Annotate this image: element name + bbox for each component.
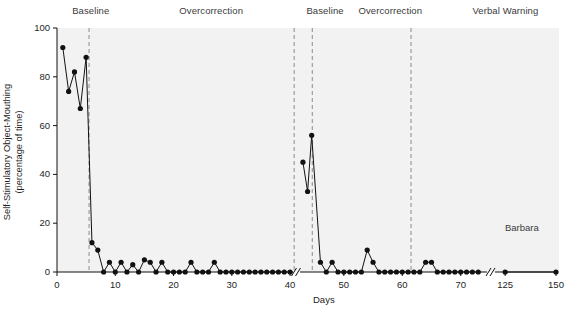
data-point [95, 247, 100, 252]
chart-figure: Self-Stimulatory Object-Mouthing (percen… [0, 0, 566, 312]
data-point [142, 257, 147, 262]
data-point [382, 269, 387, 274]
data-point [347, 269, 352, 274]
data-point [218, 269, 223, 274]
data-point [411, 269, 416, 274]
data-point [318, 260, 323, 265]
data-point [159, 260, 164, 265]
x-axis-title: Days [313, 294, 335, 305]
data-point [330, 260, 335, 265]
data-point [188, 260, 193, 265]
data-point [118, 260, 123, 265]
data-point [270, 269, 275, 274]
data-point [206, 269, 211, 274]
data-point [223, 269, 228, 274]
data-point [235, 269, 240, 274]
data-point [130, 262, 135, 267]
data-point [282, 269, 287, 274]
data-point [200, 269, 205, 274]
data-point [341, 269, 346, 274]
data-point [406, 269, 411, 274]
data-point [165, 269, 170, 274]
data-point [365, 247, 370, 252]
data-point [553, 269, 558, 274]
data-point [78, 106, 83, 111]
data-point [153, 269, 158, 274]
data-point [183, 269, 188, 274]
data-point [89, 240, 94, 245]
data-point [452, 269, 457, 274]
data-point [148, 260, 153, 265]
data-point [324, 269, 329, 274]
data-point [276, 269, 281, 274]
data-point [60, 45, 65, 50]
data-point [470, 269, 475, 274]
data-point [370, 260, 375, 265]
subject-label: Barbara [505, 222, 539, 233]
data-point [241, 269, 246, 274]
data-point [229, 269, 234, 274]
data-point [476, 269, 481, 274]
data-point [503, 269, 508, 274]
data-point [417, 269, 422, 274]
data-point [258, 269, 263, 274]
data-point [247, 269, 252, 274]
data-point [359, 269, 364, 274]
data-point [84, 55, 89, 60]
data-point [441, 269, 446, 274]
data-point [136, 269, 141, 274]
plot-background [57, 28, 559, 272]
data-point [446, 269, 451, 274]
data-point [309, 133, 314, 138]
data-point [300, 160, 305, 165]
data-point [287, 269, 292, 274]
data-point [264, 269, 269, 274]
data-point [335, 269, 340, 274]
data-point [171, 269, 176, 274]
data-point [194, 269, 199, 274]
data-point [72, 69, 77, 74]
data-point [376, 269, 381, 274]
data-point [400, 269, 405, 274]
data-point [423, 260, 428, 265]
data-point [253, 269, 258, 274]
data-point [394, 269, 399, 274]
data-point [66, 89, 71, 94]
data-point [305, 189, 310, 194]
data-point [107, 260, 112, 265]
data-point [353, 269, 358, 274]
data-point [101, 269, 106, 274]
data-point [429, 260, 434, 265]
data-point [113, 269, 118, 274]
plot-area [0, 0, 566, 312]
data-point [458, 269, 463, 274]
data-point [212, 260, 217, 265]
data-point [464, 269, 469, 274]
data-point [435, 269, 440, 274]
data-point [124, 269, 129, 274]
data-point [177, 269, 182, 274]
data-point [388, 269, 393, 274]
